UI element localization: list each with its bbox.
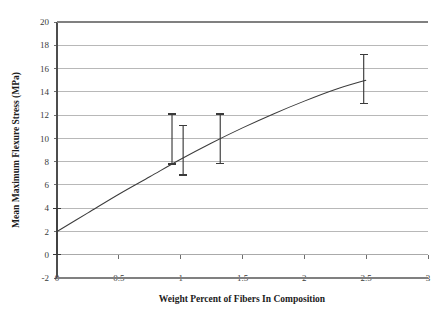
y-tick-label-16: 16 (40, 64, 50, 74)
y-tick-label-2: 2 (45, 227, 50, 237)
y-axis-title: Mean Maximum Flexure Stress (MPa) (11, 72, 22, 228)
x-axis-title: Weight Percent of Fibers In Composition (159, 294, 326, 304)
y-tick-label--2: -2 (42, 273, 50, 283)
y-tick-label-8: 8 (45, 157, 50, 167)
y-tick-label-0: 0 (45, 250, 50, 260)
y-tick-label-20: 20 (40, 17, 50, 27)
y-tick-label-18: 18 (40, 40, 50, 50)
chart-container: -202468101214161820 00.511.522.53 Weight… (0, 0, 445, 324)
flexure-stress-line-chart: -202468101214161820 00.511.522.53 Weight… (0, 0, 445, 324)
y-tick-label-6: 6 (45, 180, 50, 190)
y-tick-label-10: 10 (40, 134, 50, 144)
y-tick-label-14: 14 (40, 87, 50, 97)
y-tick-label-12: 12 (40, 110, 49, 120)
y-tick-label-4: 4 (45, 203, 50, 213)
